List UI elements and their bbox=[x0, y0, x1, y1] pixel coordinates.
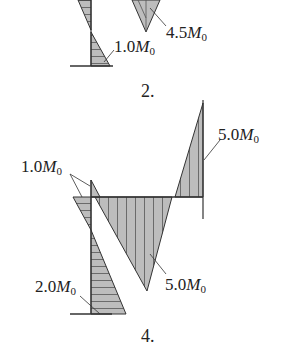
diagram-caption: 4. bbox=[141, 326, 155, 346]
moment-label: 1.0M0 bbox=[21, 157, 62, 177]
diagram-4: 1.0M0 5.0M0 2.0M0 5.0M0 4. bbox=[21, 100, 259, 346]
moment-label: 2.0M0 bbox=[35, 277, 76, 297]
moment-area-upper-left bbox=[78, 0, 91, 30]
moment-area-left-upper bbox=[73, 197, 91, 230]
moment-diagrams: 1.0M0 4.5M0 2. 1.0M0 5.0M0 2.0M0 5.0M0 4… bbox=[0, 0, 291, 347]
diagram-2: 1.0M0 4.5M0 2. bbox=[70, 0, 207, 101]
diagram-caption: 2. bbox=[141, 81, 155, 101]
moment-label: 5.0M0 bbox=[165, 275, 206, 295]
moment-area-lower-left bbox=[91, 32, 110, 66]
leader-line bbox=[104, 50, 114, 62]
moment-area-right bbox=[175, 103, 203, 197]
moment-label: 1.0M0 bbox=[114, 37, 155, 57]
moment-area-small-tip bbox=[91, 180, 100, 197]
moment-label: 4.5M0 bbox=[166, 23, 207, 43]
moment-label: 5.0M0 bbox=[218, 125, 259, 145]
